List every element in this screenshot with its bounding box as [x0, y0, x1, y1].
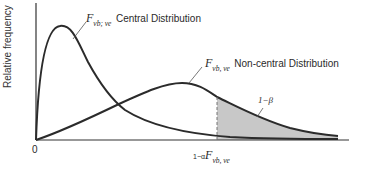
- central-subscript: νb; νe: [93, 19, 111, 28]
- noncentral-distribution-label: Fνb, νe Non-central Distribution: [205, 54, 339, 73]
- power-label: 1−β: [258, 96, 273, 105]
- noncentral-name: Non-central Distribution: [234, 58, 339, 69]
- central-distribution-label: Fνb; νe Central Distribution: [86, 9, 201, 28]
- critical-subscript: νb, νe: [212, 156, 230, 165]
- central-name: Central Distribution: [116, 13, 201, 24]
- noncentral-leader-line: [189, 67, 202, 83]
- central-leader-line: [73, 22, 86, 39]
- critical-value-label: 1−αFνb, νe: [193, 146, 230, 165]
- origin-label: 0: [32, 145, 38, 155]
- power-leader-line: [257, 108, 263, 117]
- critical-prefix: 1−α: [193, 153, 205, 160]
- y-axis-label: Relative frequency: [2, 5, 13, 88]
- noncentral-subscript: νb, νe: [212, 64, 230, 73]
